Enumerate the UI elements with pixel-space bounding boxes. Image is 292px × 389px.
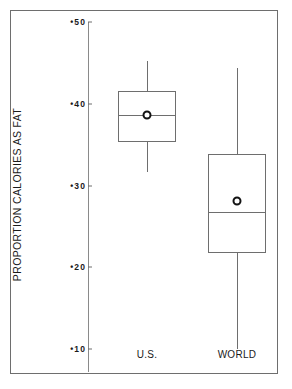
mean-marker-icon [143,111,152,120]
whisker-lower [237,253,238,349]
x-axis-label-1: WORLD [218,349,257,360]
mean-marker-icon [233,197,242,206]
whisker-upper [147,61,148,91]
y-tick-label: •30 [70,181,86,191]
y-tick-label: •50 [70,17,86,27]
boxplot-world [177,0,292,389]
y-tick-label: •40 [70,99,86,109]
boxplot-figure: PROPORTION CALORIES AS FAT •50•40•30•20•… [0,0,292,389]
whisker-lower [147,142,148,172]
x-axis-label-0: U.S. [137,349,158,360]
y-tick-label: •10 [70,344,86,354]
y-tick-label: •20 [70,262,86,272]
median-line [208,212,266,213]
whisker-upper [237,68,238,154]
